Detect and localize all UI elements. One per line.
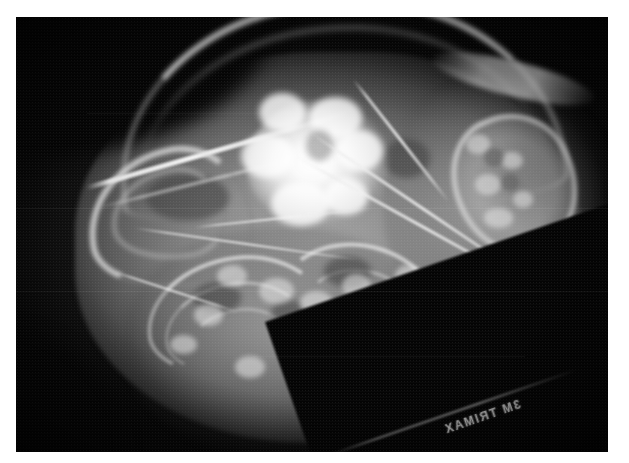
trabecular-lucency — [484, 148, 504, 167]
trabecula-blob — [475, 174, 501, 196]
tooth-root-opacity — [194, 304, 224, 326]
film-image: 3M TRIMAX — [16, 17, 608, 452]
tooth-root-opacity — [259, 278, 295, 304]
trabecular-lucency — [501, 174, 519, 191]
calcified-mass-lobe — [241, 134, 294, 178]
tooth-root-opacity — [217, 265, 247, 287]
trabecula-blob — [501, 152, 522, 169]
trabecula-blob — [484, 208, 514, 228]
tooth-root-opacity — [235, 356, 265, 378]
tooth-root-opacity — [170, 335, 197, 355]
calcified-mass-lobe — [259, 93, 306, 132]
radiograph-page: 3M TRIMAX — [0, 0, 629, 463]
